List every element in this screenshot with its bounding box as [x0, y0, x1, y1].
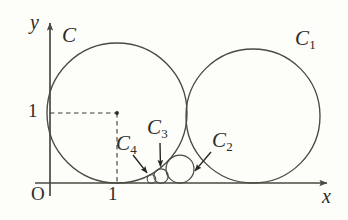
label-circle-c3-subscript: 3 — [161, 126, 168, 141]
origin-label: O — [31, 184, 45, 203]
label-circle-c: C — [62, 25, 76, 46]
label-circle-c2: C2 — [212, 130, 233, 153]
circle-c3 — [154, 169, 168, 183]
axes-group — [35, 23, 327, 196]
geometry-figure: y x O 1 1 C C1 C2 C3 C4 — [0, 0, 348, 220]
y-axis-label: y — [30, 12, 39, 32]
circle-c2 — [166, 155, 194, 183]
circle-c1 — [186, 49, 320, 183]
x-tick-label-1: 1 — [108, 184, 118, 203]
circles-group — [47, 43, 320, 183]
label-circle-c4-subscript: 4 — [130, 142, 137, 157]
label-circle-c1: C1 — [295, 28, 316, 51]
label-circle-c2-subscript: 2 — [226, 139, 233, 154]
arrow-to-c2 — [195, 152, 211, 171]
guide-lines-group — [50, 111, 119, 183]
center-dot — [115, 111, 119, 115]
arrow-to-c4 — [133, 155, 147, 173]
x-axis-label: x — [322, 186, 331, 206]
label-circle-c4: C4 — [116, 133, 137, 156]
y-tick-label-1: 1 — [28, 101, 38, 120]
label-circle-c1-subscript: 1 — [309, 37, 316, 52]
label-circle-c3: C3 — [147, 117, 168, 140]
